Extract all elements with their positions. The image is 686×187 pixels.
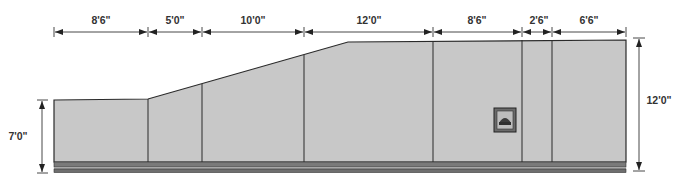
dim-label-2: 5'0"	[165, 14, 184, 26]
wall-shape	[54, 40, 626, 162]
wall-elevation-diagram: 8'6" 5'0" 10'0" 12'0" 8'6" 2'6" 6'6" 7'0…	[0, 0, 686, 187]
dim-label-6: 2'6"	[529, 14, 548, 26]
dim-label-5: 8'6"	[467, 14, 486, 26]
dim-label-7: 6'6"	[579, 14, 598, 26]
top-dimension-labels: 8'6" 5'0" 10'0" 12'0" 8'6" 2'6" 6'6"	[91, 14, 598, 26]
dim-label-3: 10'0"	[241, 14, 266, 26]
dim-label-4: 12'0"	[357, 14, 382, 26]
top-dimension-chain	[54, 27, 626, 37]
floor-base	[54, 162, 626, 173]
wall-outlet-box-icon	[494, 108, 516, 132]
right-height-label: 12'0"	[647, 94, 672, 106]
left-height-dimension	[37, 100, 48, 173]
left-height-label: 7'0"	[8, 130, 27, 142]
dim-label-1: 8'6"	[91, 14, 110, 26]
right-height-dimension	[633, 38, 645, 171]
